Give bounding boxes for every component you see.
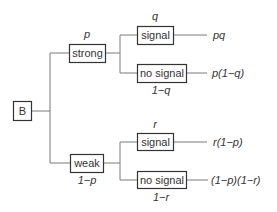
root-label: B — [19, 105, 26, 117]
node-strong-signal: q signal pq — [138, 10, 227, 45]
label-strong-signal: signal — [141, 29, 170, 41]
outcome-weak-no-signal: (1−p)(1−r) — [211, 174, 261, 186]
prob-strong-signal: q — [152, 10, 159, 22]
prob-strong-no-signal: 1−q — [152, 84, 172, 96]
node-weak-no-signal: no signal 1−r (1−p)(1−r) — [138, 172, 261, 204]
prob-weak-no-signal: 1−r — [153, 191, 171, 203]
prob-weak: 1−p — [78, 174, 97, 186]
probability-tree-diagram: B p strong weak 1−p q signal pq no signa… — [0, 0, 277, 212]
outcome-strong-signal: pq — [212, 29, 226, 41]
label-weak-no-signal: no signal — [140, 174, 184, 186]
label-weak-signal: signal — [141, 136, 170, 148]
node-weak-signal: r signal r(1−p) — [138, 118, 243, 151]
node-strong: p strong — [70, 28, 106, 63]
connectors — [32, 35, 208, 180]
prob-weak-signal: r — [153, 118, 158, 130]
label-strong-no-signal: no signal — [140, 67, 184, 79]
node-strong-no-signal: no signal 1−q p(1−q) — [138, 65, 245, 97]
outcome-strong-no-signal: p(1−q) — [211, 67, 244, 79]
label-strong: strong — [72, 47, 103, 59]
prob-strong: p — [83, 28, 90, 40]
node-weak: weak 1−p — [71, 155, 104, 187]
outcome-weak-signal: r(1−p) — [213, 136, 243, 148]
root-node: B — [14, 102, 32, 121]
label-weak: weak — [73, 157, 100, 169]
